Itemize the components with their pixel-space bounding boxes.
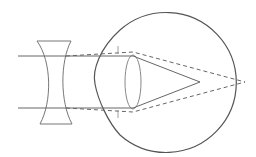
ray-top-converge (133, 56, 200, 82)
myopia-correction-diagram (0, 0, 256, 157)
ray-bottom-converge (133, 82, 200, 108)
concave-lens (37, 41, 72, 124)
eyeball-outline (120, 13, 236, 153)
crystalline-lens (125, 55, 141, 109)
cornea (94, 30, 120, 135)
